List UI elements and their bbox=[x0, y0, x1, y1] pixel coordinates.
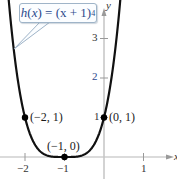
x-axis-arrow-icon bbox=[166, 155, 174, 160]
x-axis-label: x bbox=[174, 150, 177, 162]
point-label: (−1, 0) bbox=[47, 139, 80, 154]
function-exponent: 4 bbox=[91, 9, 95, 18]
axis-ticks bbox=[25, 39, 144, 162]
point-label: (−2, 1) bbox=[30, 110, 63, 125]
x-tick-label: −2 bbox=[17, 162, 29, 174]
x-tick-label: −1 bbox=[57, 162, 69, 174]
point-marker bbox=[61, 154, 67, 160]
x-tick-label: 1 bbox=[141, 162, 147, 174]
callout-pointer bbox=[14, 22, 50, 49]
function-body: (x + 1) bbox=[56, 5, 92, 21]
y-tick-label: 3 bbox=[92, 31, 98, 43]
function-label-callout: h(x) = (x + 1)4 bbox=[19, 3, 97, 23]
point-marker bbox=[101, 114, 107, 120]
y-axis-label: y bbox=[106, 0, 111, 11]
point-label: (0, 1) bbox=[109, 110, 135, 125]
point-marker bbox=[22, 114, 28, 120]
function-graph bbox=[0, 0, 177, 179]
function-name: h bbox=[21, 5, 28, 21]
function-var: x bbox=[32, 5, 38, 21]
y-tick-label: 1 bbox=[94, 110, 100, 122]
y-tick-label: 2 bbox=[92, 70, 98, 82]
